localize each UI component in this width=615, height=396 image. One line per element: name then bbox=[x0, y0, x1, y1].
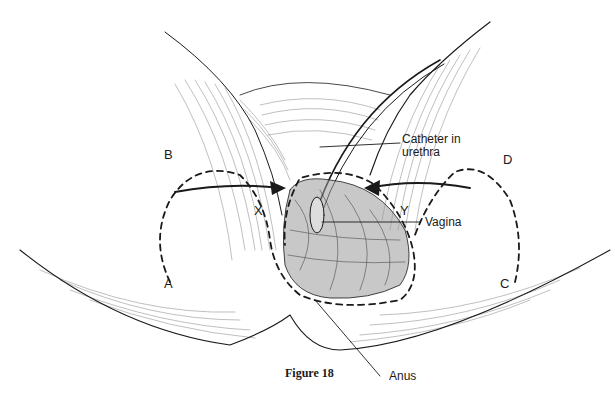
anus-label: Anus bbox=[389, 370, 416, 383]
mons-contour bbox=[240, 83, 390, 96]
flap-letter-d: D bbox=[503, 152, 512, 167]
left-thigh-contour bbox=[165, 32, 282, 215]
left-hatching bbox=[40, 80, 290, 338]
catheter-leader bbox=[320, 143, 400, 147]
vagina-label: Vagina bbox=[425, 216, 461, 229]
flap-letter-a: A bbox=[164, 276, 173, 291]
figure-caption: Figure 18 bbox=[285, 366, 334, 381]
anatomical-illustration: Catheter in urethra Vagina Anus B A X Y … bbox=[0, 0, 615, 396]
flap-letter-y: Y bbox=[400, 203, 409, 218]
arrow-right-shaft bbox=[370, 183, 470, 188]
flap-letter-x: X bbox=[254, 203, 263, 218]
anus-leader bbox=[315, 300, 380, 376]
flap-letter-c: C bbox=[500, 276, 509, 291]
flap-letter-b: B bbox=[164, 147, 173, 162]
catheter-label-line2: urethra bbox=[402, 146, 461, 159]
illustration-drawing bbox=[0, 0, 615, 396]
vaginal-opening bbox=[310, 197, 324, 233]
arrow-left-head-icon bbox=[270, 181, 286, 195]
catheter-label: Catheter in urethra bbox=[402, 133, 461, 159]
